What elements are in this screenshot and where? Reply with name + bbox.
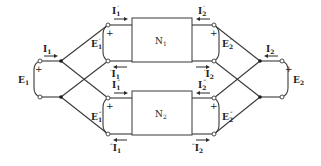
voltage-label-e2: E2 <box>293 75 304 86</box>
voltage-label-e1-prime: E1′ <box>91 37 102 50</box>
junction-dot <box>258 59 262 63</box>
voltage-label-e1-double-prime: E1″ <box>91 110 102 123</box>
current-label-i2-prime: I2′ <box>198 4 206 17</box>
plus-sign: + <box>285 64 293 74</box>
plus-sign: + <box>106 101 114 111</box>
junction-dot <box>59 59 63 63</box>
current-label-i1-prime: I1′ <box>112 4 120 17</box>
current-label-i1-double-return: ″I1 <box>110 142 121 154</box>
voltage-label-e1: E1 <box>18 75 29 86</box>
current-label-i1: I1 <box>43 44 51 55</box>
plus-sign: + <box>210 28 218 38</box>
plus-sign: + <box>106 28 114 38</box>
voltage-label-e2-double-prime: E2″ <box>222 110 233 123</box>
junction-dot <box>258 95 262 99</box>
plus-sign: + <box>210 101 218 111</box>
circuit-diagram: N1 N2 <box>0 0 321 166</box>
right-wiring <box>192 25 288 134</box>
plus-sign: + <box>35 64 43 74</box>
current-label-i2: I2 <box>266 44 274 55</box>
current-label-i2-double-return: ″I2 <box>192 142 203 154</box>
current-label-i1-double-prime: I1″ <box>112 78 120 91</box>
junction-dot <box>59 95 63 99</box>
current-label-i2-double-prime: I2″ <box>198 78 206 91</box>
voltage-label-e2-prime: E2′ <box>222 37 233 50</box>
